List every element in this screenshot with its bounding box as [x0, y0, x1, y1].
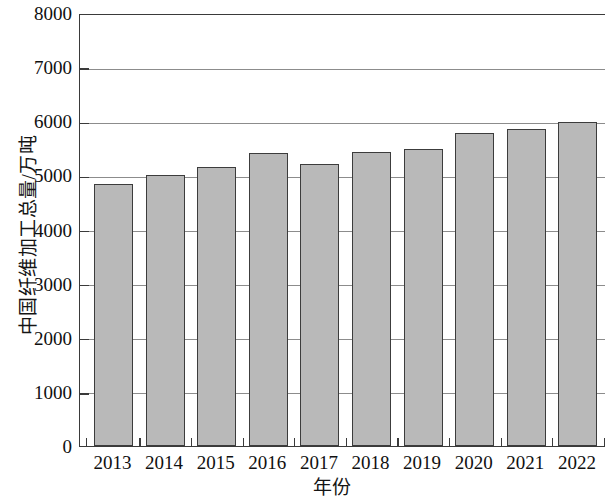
y-tick-mark — [80, 177, 89, 178]
bar — [249, 153, 288, 446]
y-tick-label: 6000 — [10, 112, 72, 131]
x-tick-label: 2022 — [547, 452, 605, 474]
x-tick-mark — [139, 438, 140, 446]
bar — [455, 133, 494, 446]
bar — [300, 164, 339, 446]
bar — [558, 122, 597, 446]
x-tick-mark — [449, 438, 450, 446]
x-tick-mark — [86, 438, 87, 446]
y-tick-mark — [80, 123, 89, 124]
y-tick-label: 1000 — [10, 383, 72, 402]
y-tick-mark — [80, 285, 89, 286]
y-tick-label: 3000 — [10, 275, 72, 294]
x-tick-mark — [501, 438, 502, 446]
bar — [146, 175, 185, 446]
x-tick-mark — [397, 438, 398, 446]
y-tick-mark — [80, 393, 89, 394]
gridline — [80, 123, 605, 124]
x-tick-mark — [294, 438, 295, 446]
y-tick-label: 2000 — [10, 329, 72, 348]
bar — [94, 184, 133, 447]
x-tick-mark — [191, 438, 192, 446]
x-tick-mark — [346, 438, 347, 446]
bar — [404, 149, 443, 446]
y-tick-mark — [80, 68, 89, 69]
bar-chart-figure: 中国纤维加工总量/万吨 0100020003000400050006000700… — [0, 0, 605, 504]
y-tick-label: 0 — [10, 437, 72, 456]
gridline — [80, 69, 605, 70]
y-tick-label: 5000 — [10, 166, 72, 185]
y-axis-tick-labels: 010002000300040005000600070008000 — [6, 0, 72, 504]
bar — [352, 152, 391, 446]
x-tick-mark — [243, 438, 244, 446]
y-tick-label: 7000 — [10, 58, 72, 77]
y-tick-mark — [80, 231, 89, 232]
bar — [507, 129, 546, 446]
plot-area — [79, 14, 605, 447]
bar — [197, 167, 236, 446]
y-tick-label: 8000 — [10, 4, 72, 23]
y-tick-mark — [80, 339, 89, 340]
y-tick-label: 4000 — [10, 221, 72, 240]
x-tick-mark — [552, 438, 553, 446]
x-axis-title: 年份 — [79, 477, 585, 499]
x-axis-tick-labels: 2013201420152016201720182019202020212022 — [79, 452, 605, 478]
